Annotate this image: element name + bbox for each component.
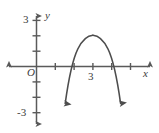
graph-figure: y x O 3 -3 3: [0, 0, 159, 133]
origin-label: O: [27, 67, 35, 78]
y-tick-label-negative-3: -3: [17, 107, 26, 118]
y-axis-label: y: [45, 10, 50, 21]
x-tick-label-3: 3: [88, 71, 94, 82]
y-tick-label-3: 3: [23, 14, 29, 25]
x-axis-label: x: [143, 68, 148, 79]
parabola-right-branch: [93, 35, 121, 103]
